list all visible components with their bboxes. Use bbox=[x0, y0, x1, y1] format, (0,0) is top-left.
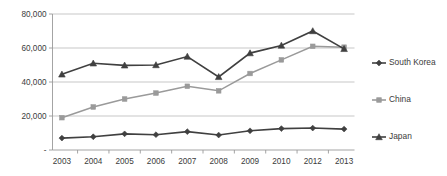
line-chart: -20,00040,00060,00080,000 20032004200520… bbox=[0, 0, 447, 176]
x-tick-label: 2009 bbox=[241, 157, 260, 166]
data-point-marker bbox=[91, 105, 96, 110]
x-tick-label: 2006 bbox=[147, 157, 166, 166]
data-point-marker bbox=[309, 28, 316, 34]
legend-item-japan[interactable]: Japan bbox=[372, 131, 412, 141]
legend-label: South Korea bbox=[389, 57, 436, 67]
data-point-marker bbox=[310, 125, 316, 131]
data-point-marker bbox=[278, 126, 284, 132]
x-axis-group bbox=[53, 150, 355, 154]
x-tick-label: 2007 bbox=[178, 157, 197, 166]
gridlines-group bbox=[53, 14, 355, 116]
series-line bbox=[62, 31, 344, 77]
data-point-marker bbox=[184, 129, 190, 135]
data-point-marker bbox=[153, 132, 159, 138]
legend-label: Japan bbox=[389, 131, 412, 141]
series-line bbox=[62, 128, 344, 138]
y-tick-label: - bbox=[44, 146, 47, 155]
data-point-marker bbox=[341, 126, 347, 132]
data-point-marker bbox=[376, 60, 382, 66]
data-point-marker bbox=[248, 71, 253, 76]
x-tick-labels-group: 2003200420052006200720082009201020122013 bbox=[53, 157, 354, 166]
series-japan bbox=[59, 28, 348, 80]
x-tick-label: 2010 bbox=[272, 157, 291, 166]
y-tick-label: 40,000 bbox=[21, 78, 46, 87]
data-point-marker bbox=[216, 89, 221, 94]
data-point-marker bbox=[247, 128, 253, 134]
x-tick-label: 2012 bbox=[304, 157, 323, 166]
y-tick-labels-group: -20,00040,00060,00080,000 bbox=[21, 10, 46, 155]
y-tick-label: 20,000 bbox=[21, 112, 46, 121]
x-tick-label: 2005 bbox=[116, 157, 135, 166]
data-point-marker bbox=[60, 115, 65, 120]
x-tick-label: 2013 bbox=[335, 157, 354, 166]
y-tick-label: 60,000 bbox=[21, 44, 46, 53]
data-point-marker bbox=[154, 91, 159, 96]
data-point-marker bbox=[310, 44, 315, 49]
legend-label: China bbox=[389, 94, 411, 104]
data-point-marker bbox=[59, 135, 65, 141]
legend-group: South KoreaChinaJapan bbox=[372, 57, 436, 141]
data-point-marker bbox=[184, 53, 191, 59]
chart-canvas: -20,00040,00060,00080,000 20032004200520… bbox=[0, 0, 447, 176]
data-point-marker bbox=[377, 98, 382, 103]
y-tick-label: 80,000 bbox=[21, 10, 46, 19]
data-point-marker bbox=[216, 132, 222, 138]
data-point-marker bbox=[122, 97, 127, 102]
x-tick-label: 2004 bbox=[84, 157, 103, 166]
data-point-marker bbox=[90, 134, 96, 140]
data-point-marker bbox=[122, 131, 128, 137]
series-south-korea bbox=[59, 125, 347, 141]
x-tick-label: 2008 bbox=[210, 157, 229, 166]
y-axis-group bbox=[49, 14, 53, 150]
legend-item-south-korea[interactable]: South Korea bbox=[372, 57, 436, 67]
series-group bbox=[59, 28, 348, 141]
x-tick-label: 2003 bbox=[53, 157, 72, 166]
data-point-marker bbox=[185, 84, 190, 89]
legend-item-china[interactable]: China bbox=[372, 94, 411, 104]
data-point-marker bbox=[279, 58, 284, 63]
